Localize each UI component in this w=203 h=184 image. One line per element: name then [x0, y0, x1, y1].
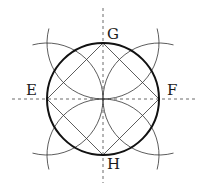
label-h: H: [107, 157, 120, 172]
label-g: G: [107, 27, 119, 42]
label-f: F: [167, 83, 177, 98]
label-e: E: [26, 83, 37, 98]
diagram-canvas: G H E F: [0, 0, 203, 184]
